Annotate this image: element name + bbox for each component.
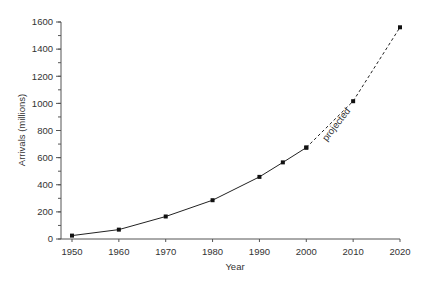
data-point-marker <box>70 234 74 238</box>
y-tick-label: 200 <box>37 206 53 217</box>
data-point-marker <box>257 175 261 179</box>
x-tick-label: 2000 <box>296 246 317 257</box>
x-axis-title: Year <box>225 261 244 272</box>
x-tick-label: 1960 <box>108 246 129 257</box>
y-tick-label: 1200 <box>32 71 53 82</box>
y-tick-label: 800 <box>37 125 53 136</box>
actual-line <box>72 148 306 236</box>
x-tick-label: 1970 <box>155 246 176 257</box>
x-tick-label: 1980 <box>202 246 223 257</box>
y-tick-label: 0 <box>48 233 53 244</box>
line-chart: 0200400600800100012001400160019501960197… <box>0 0 427 286</box>
data-point-marker <box>281 160 285 164</box>
data-point-marker <box>211 198 215 202</box>
data-point-marker <box>117 228 121 232</box>
x-tick-label: 2020 <box>389 246 410 257</box>
data-series <box>70 25 402 237</box>
projected-annotation: projected <box>320 105 353 143</box>
y-axis-title: Arrivals (millions) <box>16 94 27 166</box>
projected-line <box>306 27 400 147</box>
axes: 0200400600800100012001400160019501960197… <box>32 16 411 257</box>
y-tick-label: 600 <box>37 152 53 163</box>
annotations: projected <box>320 105 353 143</box>
y-tick-label: 1000 <box>32 98 53 109</box>
data-point-marker <box>398 25 402 29</box>
x-tick-label: 1950 <box>61 246 82 257</box>
data-point-marker <box>304 146 308 150</box>
y-tick-label: 1600 <box>32 16 53 27</box>
y-tick-label: 400 <box>37 179 53 190</box>
x-tick-label: 2010 <box>343 246 364 257</box>
data-point-marker <box>351 99 355 103</box>
x-tick-label: 1990 <box>249 246 270 257</box>
data-point-marker <box>164 214 168 218</box>
y-tick-label: 1400 <box>32 43 53 54</box>
